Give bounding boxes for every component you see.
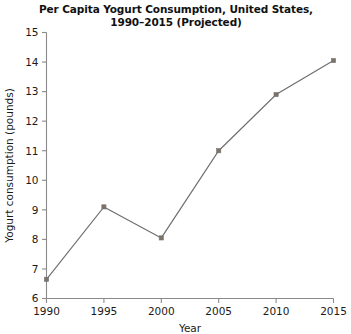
y-tick-label: 12 [25, 115, 38, 127]
x-axis-title: Year [178, 322, 202, 334]
y-axis-ticks [42, 33, 47, 299]
y-axis-tick-labels: 6789101112131415 [25, 26, 39, 304]
y-tick-label: 14 [25, 56, 39, 68]
y-tick-label: 13 [25, 85, 38, 97]
y-tick-label: 7 [32, 263, 39, 275]
x-axis-ticks [47, 299, 334, 304]
y-tick-label: 6 [32, 292, 39, 304]
x-tick-label: 2010 [263, 305, 290, 317]
data-point-marker [102, 205, 106, 209]
x-axis-tick-labels: 199019952000200520102015 [33, 305, 347, 317]
data-series-yogurt-consumption [47, 61, 334, 280]
data-point-markers [44, 58, 335, 281]
y-tick-label: 11 [25, 145, 38, 157]
chart-figure: Per Capita Yogurt Consumption, United St… [0, 0, 351, 334]
x-tick-label: 1995 [91, 305, 118, 317]
y-tick-label: 10 [25, 174, 38, 186]
data-point-marker [217, 149, 221, 153]
y-tick-label: 15 [25, 26, 38, 38]
y-tick-label: 8 [32, 233, 39, 245]
data-point-marker [331, 58, 335, 62]
x-tick-label: 2005 [205, 305, 232, 317]
x-tick-label: 2000 [148, 305, 175, 317]
data-point-marker [44, 277, 48, 281]
data-point-marker [274, 92, 278, 96]
line-chart-plot: 6789101112131415 19901995200020052010201… [0, 0, 351, 334]
x-tick-label: 2015 [320, 305, 347, 317]
data-point-marker [159, 236, 163, 240]
x-tick-label: 1990 [33, 305, 60, 317]
y-axis-title: Yogurt consumption (pounds) [3, 88, 15, 244]
series-line [47, 61, 334, 280]
y-tick-label: 9 [32, 204, 39, 216]
